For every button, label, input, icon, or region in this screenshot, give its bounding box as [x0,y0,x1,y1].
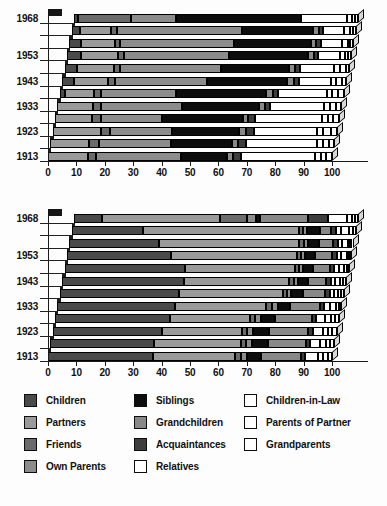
x-tick-mark [190,162,191,166]
bar-segment [298,277,308,286]
x-tick-mark [275,162,276,166]
x-tick-label: 30 [128,367,139,378]
bar-segment [316,314,325,323]
bar-segment [131,14,176,23]
bar-row [72,226,356,235]
y-tick-mark [40,23,74,24]
x-tick-mark [162,162,163,166]
bar-segment [69,39,80,48]
x-tick-label: 90 [298,367,309,378]
y-tick-label: 1923 [17,127,38,137]
bar-segment [275,314,312,323]
bar-segment [300,64,334,73]
bar-segment [48,352,153,361]
bar-segment [308,239,319,248]
bar-row [60,289,344,298]
bar-segment [299,77,330,86]
bar-segment [96,152,181,161]
bar-segment [308,214,328,223]
bar-segment [260,214,308,223]
y-tick-label: 1968 [17,14,38,24]
bar-segment [57,302,175,311]
y-tick-mark [40,323,55,324]
bar-segment [278,302,291,311]
x-tick-label: 40 [156,167,167,178]
x-tick-mark [76,362,77,366]
x-tick-mark [133,162,134,166]
x-tick-mark [133,362,134,366]
bar-segment [101,127,110,136]
bar-segment [77,64,114,73]
bar-row [48,152,332,161]
bar-row [60,89,344,98]
x-tick-label: 20 [99,367,110,378]
legend-swatch-icon [244,394,257,407]
y-tick-mark [40,361,48,362]
legend-label: Relatives [156,461,199,473]
y-tick-label: 1968 [17,214,38,224]
bar-segment [321,39,342,48]
legend-label: Grandparents [266,439,330,451]
x-tick-mark [275,362,276,366]
x-tick-label: 0 [45,167,50,178]
bar-depth-face [332,347,338,361]
bar-segment [117,26,242,35]
bar-segment [254,127,316,136]
bar-segment [108,77,115,86]
bar-depth-face [349,259,355,273]
x-tick-label: 70 [241,367,252,378]
bar-segment [242,26,313,35]
bar-segment [184,277,289,286]
bar-segment [50,139,88,148]
x-tick-mark [332,162,333,166]
bar-row [69,239,353,248]
bar-row [55,314,339,323]
y-tick-label: 1943 [17,277,38,287]
bar-segment [60,289,179,298]
bar-segment [110,127,172,136]
bar-segment [53,127,101,136]
bar-segment [182,102,259,111]
x-tick-label: 10 [71,367,82,378]
bar-segment [176,89,265,98]
bar-row [53,127,337,136]
bar-segment [290,302,320,311]
bar-segment [253,327,269,336]
x-tick-label: 80 [270,167,281,178]
x-tick-mark [190,362,191,366]
bar-row [74,14,358,23]
bar-segment [88,152,97,161]
bar-segment [81,51,118,60]
bar-segment [162,327,242,336]
bar-depth-face [349,59,355,73]
y-tick-label: 1913 [17,152,38,162]
bar-row [69,39,353,48]
plot-area-top: 0102030405060708090100191319231933194319… [0,0,387,192]
chart-panel-top: 0102030405060708090100191319231933194319… [0,0,387,192]
bar-segment [154,339,241,348]
bar-segment [318,51,339,60]
bar-segment [124,51,229,60]
bar-segment [65,264,186,273]
bar-row [53,327,337,336]
chart-top-face [48,209,62,216]
bar-segment [120,64,221,73]
bar-row [48,352,332,361]
bar-segment [55,314,170,323]
x-tick-mark [247,162,248,166]
y-tick-mark [40,235,72,236]
x-tick-mark [304,362,305,366]
bar-segment [313,264,330,273]
x-tick-label: 50 [185,367,196,378]
y-tick-mark [40,298,60,299]
y-tick-mark [40,86,62,87]
y-tick-mark [40,248,69,249]
chart-panel-bottom: 0102030405060708090100191319231933194319… [0,200,387,392]
y-tick-mark [40,136,53,137]
bar-segment [185,264,294,273]
bar-segment [171,251,297,260]
bar-segment [74,214,102,223]
y-tick-mark [40,48,69,49]
y-tick-mark [40,223,74,224]
bar-segment [238,139,247,148]
